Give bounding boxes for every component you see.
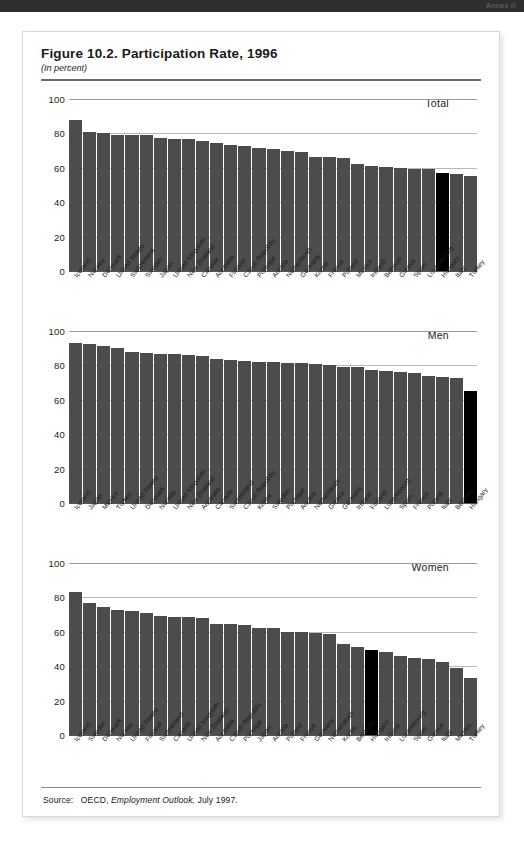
x-axis-tick: Norway	[83, 273, 96, 319]
bar	[182, 617, 195, 735]
x-axis-tick: Italy	[436, 737, 449, 783]
y-axis: 020406080100	[39, 331, 69, 503]
figure-title: Figure 10.2. Participation Rate, 1996	[41, 46, 483, 61]
bar	[436, 377, 449, 503]
bar	[238, 146, 251, 271]
source-note: Source: OECD, Employment Outlook, July 1…	[43, 795, 483, 805]
x-axis-tick: Portugal	[252, 273, 265, 319]
x-axis-tick: Luxembourg	[422, 273, 435, 319]
bar	[422, 169, 435, 271]
x-axis-tick: Finland	[140, 737, 153, 783]
bar	[69, 592, 82, 735]
y-axis-tick: 0	[41, 498, 65, 509]
bar	[351, 647, 364, 735]
bar	[464, 176, 477, 271]
x-axis-tick: Poland	[422, 505, 435, 551]
y-axis-tick: 60	[41, 394, 65, 405]
bar	[125, 611, 138, 735]
y-axis-tick: 20	[41, 463, 65, 474]
x-axis-labels: IcelandJapanMexicoTurkeyUnited StatesDen…	[69, 505, 477, 551]
bar	[154, 138, 167, 271]
x-axis-tick: Czech Republic	[238, 505, 251, 551]
x-axis-tick: Ireland	[365, 273, 378, 319]
bar	[111, 348, 124, 503]
x-axis-tick: Greece	[323, 505, 336, 551]
bar	[281, 632, 294, 735]
bar	[111, 135, 124, 271]
bar	[408, 373, 421, 503]
y-axis-tick: 20	[41, 231, 65, 242]
x-axis-tick: Italy	[436, 505, 449, 551]
x-axis-tick: Mexico	[351, 273, 364, 319]
y-axis-tick: 80	[41, 360, 65, 371]
x-axis-tick: Korea	[252, 505, 265, 551]
bar	[83, 132, 96, 271]
x-axis-tick: Mexico	[450, 737, 463, 783]
x-axis-tick: Denmark	[97, 273, 110, 319]
y-axis-tick: 40	[41, 429, 65, 440]
x-axis-tick: United Kingdom	[182, 737, 195, 783]
x-axis-tick: United States	[111, 273, 124, 319]
x-axis-tick: Sweden	[267, 505, 280, 551]
x-axis-tick: Spain	[408, 737, 421, 783]
page-header-band: Annex II	[0, 0, 524, 12]
bar	[69, 343, 82, 503]
x-axis-tick: Luxembourg	[394, 737, 407, 783]
x-axis-tick: Finland	[365, 505, 378, 551]
bar	[351, 164, 364, 272]
bar	[351, 367, 364, 503]
y-axis-tick: 40	[41, 661, 65, 672]
y-axis-tick: 100	[41, 558, 65, 569]
bar	[365, 370, 378, 503]
y-axis-tick: 100	[41, 326, 65, 337]
x-axis-tick: Italy	[450, 273, 463, 319]
x-axis-tick: Australia	[210, 737, 223, 783]
bar	[309, 364, 322, 503]
x-axis-tick: New Zealand	[182, 505, 195, 551]
x-axis-tick: United Kingdom	[168, 505, 181, 551]
chart-panel-men: Men020406080100IcelandJapanMexicoTurkeyU…	[39, 323, 483, 551]
x-axis-tick: Austria	[267, 737, 280, 783]
x-axis-tick: Portugal	[281, 505, 294, 551]
x-axis-tick: Iceland	[69, 737, 82, 783]
bar	[168, 354, 181, 503]
x-axis-tick: New Zealand	[182, 273, 195, 319]
bar	[379, 371, 392, 503]
figure-subtitle: (In percent)	[41, 63, 483, 73]
bar	[210, 143, 223, 271]
y-axis-tick: 100	[41, 94, 65, 105]
x-axis-tick: Spain	[394, 505, 407, 551]
x-axis-tick: Australia	[196, 505, 209, 551]
x-axis-tick: Japan	[83, 505, 96, 551]
x-axis-labels: IcelandNorwayDenmarkUnited StatesSwitzer…	[69, 273, 477, 319]
x-axis-tick: Netherlands	[281, 273, 294, 319]
x-axis-tick: Switzerland	[154, 737, 167, 783]
x-axis-tick: Spain	[408, 273, 421, 319]
x-axis-tick: Iceland	[69, 505, 82, 551]
y-axis-tick: 80	[41, 592, 65, 603]
x-axis-tick: Belgium	[379, 273, 392, 319]
x-axis-tick: Austria	[267, 273, 280, 319]
x-axis-tick: Sweden	[83, 737, 96, 783]
bar	[83, 344, 96, 503]
x-axis-tick: Canada	[210, 505, 223, 551]
bar	[97, 133, 110, 271]
x-axis-tick: Iceland	[69, 273, 82, 319]
bar	[154, 616, 167, 735]
y-axis: 020406080100	[39, 99, 69, 271]
page-header-label: Annex II	[486, 1, 516, 11]
x-axis-tick: Germany	[309, 737, 322, 783]
x-axis-tick: Greece	[422, 737, 435, 783]
title-divider	[41, 79, 481, 81]
y-axis-tick: 40	[41, 197, 65, 208]
bar	[422, 376, 435, 503]
x-axis-tick: Japan	[154, 273, 167, 319]
bar	[295, 363, 308, 503]
bar	[295, 632, 308, 735]
y-axis-tick: 0	[41, 730, 65, 741]
bar	[267, 149, 280, 271]
figure-card: Figure 10.2. Participation Rate, 1996 (I…	[22, 31, 500, 817]
bar	[450, 668, 463, 735]
x-axis-tick: Sweden	[140, 273, 153, 319]
source-organization: OECD,	[81, 795, 109, 805]
